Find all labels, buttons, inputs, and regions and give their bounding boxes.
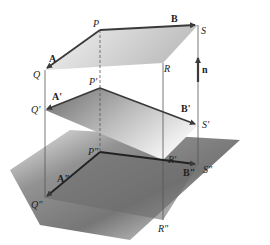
- label-vector-b: B: [171, 13, 178, 24]
- label-r-double-prime: R": [157, 223, 169, 234]
- label-vector-a-prime: A': [52, 91, 62, 102]
- label-q: Q: [33, 69, 41, 80]
- label-vector-a: A: [49, 53, 57, 64]
- label-p-prime: P': [88, 76, 98, 87]
- label-vector-b-prime: B': [181, 103, 191, 114]
- label-vector-b-double-prime: B": [183, 167, 195, 178]
- top-plane: [45, 25, 198, 70]
- label-r-prime: R': [167, 154, 177, 165]
- label-s-double-prime: S": [203, 164, 213, 175]
- label-s: S: [201, 25, 206, 36]
- label-p-double-prime: P": [87, 146, 99, 157]
- projection-diagram: P Q R S A B n P' Q' S' A' B' P" Q" R" S"…: [0, 0, 270, 245]
- label-r: R: [163, 63, 170, 74]
- label-vector-a-double-prime: A": [57, 173, 70, 184]
- label-p: P: [92, 18, 99, 29]
- label-q-double-prime: Q": [31, 199, 43, 210]
- label-s-prime: S': [202, 119, 210, 130]
- label-normal-n: n: [202, 64, 208, 75]
- label-q-prime: Q': [31, 104, 41, 115]
